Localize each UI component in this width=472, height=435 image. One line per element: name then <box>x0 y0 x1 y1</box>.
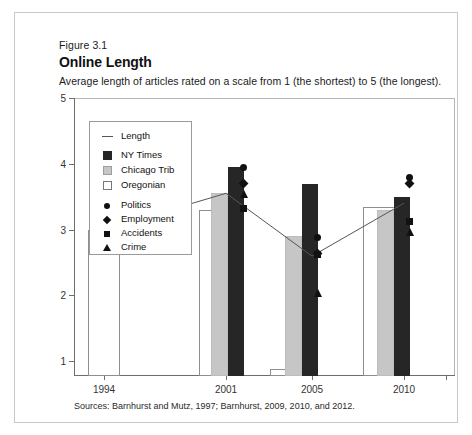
diamond-marker-icon <box>99 214 115 225</box>
figure-subtitle: Average length of articles rated on a sc… <box>59 75 441 87</box>
x-tick-label-1994: 1994 <box>93 384 115 395</box>
figure-card: Figure 3.1 Online Length Average length … <box>14 12 458 423</box>
legend-label-oregonian: Oregonian <box>121 179 165 190</box>
marker-2005-crime <box>314 289 322 297</box>
triangle-marker-icon <box>99 242 115 253</box>
legend-label-ny-times: NY Times <box>121 149 162 160</box>
marker-2010-accidents <box>406 218 413 225</box>
marker-2010-crime <box>406 228 414 236</box>
y-tick-label-1: 1 <box>60 361 66 362</box>
y-tick-label-5: 5 <box>60 98 66 99</box>
legend-label-length: Length <box>121 130 150 141</box>
chart-legend: Length NY Times Chicago Trib Oregonian P… <box>89 121 192 255</box>
white-square-swatch-icon <box>99 180 115 191</box>
marker-2005-politics <box>314 234 321 241</box>
legend-label-employment: Employment <box>121 213 174 224</box>
legend-label-crime: Crime <box>121 241 146 252</box>
y-tick-label-4: 4 <box>60 164 66 165</box>
y-tick-label-2: 2 <box>60 295 66 296</box>
x-tick-label-2010: 2010 <box>393 384 415 395</box>
figure-title: Online Length <box>59 54 152 70</box>
figure-source: Sources: Barnhurst and Mutz, 1997; Barnh… <box>74 401 355 411</box>
marker-2001-politics <box>240 164 247 171</box>
legend-label-accidents: Accidents <box>121 227 162 238</box>
marker-2005-accidents <box>314 251 321 258</box>
x-tick-label-2001: 2001 <box>215 384 237 395</box>
circle-marker-icon <box>99 200 115 211</box>
black-square-swatch-icon <box>99 150 115 161</box>
marker-2001-crime <box>240 190 248 198</box>
line-swatch-icon <box>99 131 115 142</box>
square-marker-icon <box>99 228 115 239</box>
legend-label-chicago-trib: Chicago Trib <box>121 164 174 175</box>
marker-2001-accidents <box>240 205 247 212</box>
x-tick-label-2005: 2005 <box>301 384 323 395</box>
y-tick-label-3: 3 <box>60 230 66 231</box>
gray-square-swatch-icon <box>99 165 115 176</box>
figure-number: Figure 3.1 <box>59 39 107 51</box>
legend-label-politics: Politics <box>121 199 151 210</box>
